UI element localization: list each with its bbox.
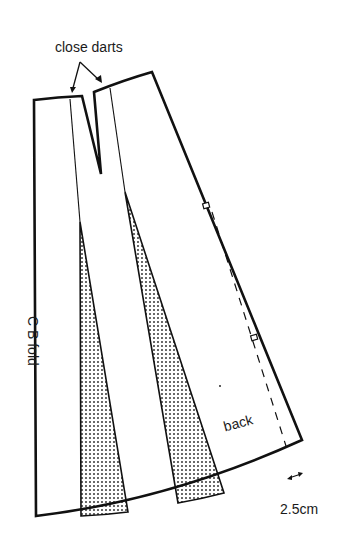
stray-mark <box>219 385 221 387</box>
slash-line-2 <box>110 88 125 192</box>
close-darts-arrowhead-left <box>70 87 76 93</box>
seam-measure-label: 2.5cm <box>280 502 318 516</box>
measure-arrowhead-left <box>287 475 292 480</box>
close-darts-arrow-right <box>80 62 99 80</box>
cb-fold-label: C B fold <box>26 316 40 366</box>
pattern-outline <box>34 72 302 516</box>
notch-upper <box>203 202 210 208</box>
spread-wedge-2 <box>125 192 224 503</box>
slash-line-1 <box>70 99 80 222</box>
skirt-pattern-diagram <box>0 0 345 548</box>
measure-arrowhead-right <box>298 472 303 477</box>
close-darts-arrow-left <box>73 62 80 88</box>
spread-wedge-1 <box>80 222 128 516</box>
close-darts-label: close darts <box>55 40 123 54</box>
notch-lower <box>251 334 258 340</box>
close-darts-arrowhead-right <box>95 75 102 83</box>
